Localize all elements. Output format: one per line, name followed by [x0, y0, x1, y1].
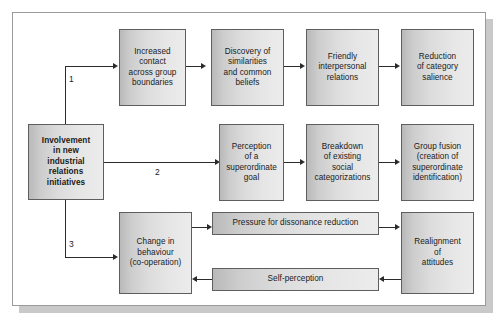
connector-branch2-horizontal	[104, 162, 215, 163]
node-line: and common	[222, 68, 274, 78]
arrowhead-r3-self-to-change	[192, 276, 197, 282]
node-involvement-line-3: industrial	[40, 157, 92, 168]
node-line: attitudes	[412, 258, 463, 268]
node-line: Group fusion	[410, 142, 465, 152]
node-line: beliefs	[222, 78, 274, 88]
arrowhead-r3-realignment-to-self	[379, 276, 384, 282]
arrowhead-branch3	[113, 254, 118, 260]
node-line: Pressure for dissonance reduction	[231, 218, 361, 228]
node-line: contact	[127, 57, 179, 67]
arrowhead-r3-pressure-to-realignment	[395, 224, 400, 230]
node-line: categorizations	[313, 173, 373, 183]
branch-label-1: 1	[69, 75, 74, 84]
connector-branch1-horizontal	[65, 66, 113, 67]
node-line: salience	[415, 73, 460, 83]
node-line: (co-operation)	[128, 258, 184, 268]
node-line: Self-perception	[266, 274, 326, 284]
branch-label-3: 3	[69, 240, 74, 249]
arrowhead-r1-1to2	[201, 63, 206, 69]
node-line: identification)	[410, 173, 465, 183]
connector-branch3-vertical	[65, 200, 66, 257]
node-change-behaviour: Change in behaviour (co-operation)	[119, 212, 192, 294]
connector-r3-realignment-to-self	[384, 279, 401, 280]
node-line: across group	[127, 68, 179, 78]
node-self-perception: Self-perception	[212, 268, 379, 291]
node-line: Breakdown	[313, 142, 373, 152]
node-friendly-relations: Friendly interpersonal relations	[306, 29, 379, 106]
node-line: interpersonal	[317, 62, 369, 72]
node-involvement-line-1: Involvement	[40, 136, 92, 147]
node-line: behaviour	[128, 248, 184, 258]
node-reduction-salience: Reduction of category salience	[401, 29, 474, 106]
node-line: of	[412, 248, 463, 258]
connector-branch1-vertical	[65, 66, 66, 124]
node-line: Perception	[224, 142, 279, 152]
node-realignment-attitudes: Realignment of attitudes	[401, 212, 474, 294]
connector-r1-3to4	[379, 66, 396, 67]
node-line: of existing	[313, 152, 373, 162]
node-line: of a	[224, 152, 279, 162]
node-involvement: Involvement in new industrial relations …	[28, 124, 104, 200]
connector-r3-change-to-pressure	[192, 227, 208, 228]
node-discovery-similarities: Discovery of similarities and common bel…	[211, 29, 284, 106]
connector-r3-pressure-to-realignment	[379, 227, 396, 228]
connector-r3-self-to-change	[197, 279, 212, 280]
connector-r2-1to2	[284, 162, 301, 163]
connector-r1-2to3	[284, 66, 301, 67]
node-line: Change in	[128, 237, 184, 247]
node-involvement-line-4: relations	[40, 167, 92, 178]
node-breakdown-categorizations: Breakdown of existing social categorizat…	[306, 124, 379, 201]
node-line: (creation of	[410, 152, 465, 162]
node-line: superordinate	[224, 163, 279, 173]
node-line: Reduction	[415, 52, 460, 62]
node-perception-goal: Perception of a superordinate goal	[219, 124, 284, 201]
node-line: Increased	[127, 47, 179, 57]
arrowhead-r1-2to3	[300, 63, 305, 69]
arrowhead-r2-1to2	[300, 159, 305, 165]
node-group-fusion: Group fusion (creation of superordinate …	[401, 124, 474, 201]
node-line: of category	[415, 62, 460, 72]
arrowhead-r2-2to3	[395, 159, 400, 165]
node-line: social	[313, 163, 373, 173]
arrowhead-branch1	[113, 63, 118, 69]
node-line: relations	[317, 73, 369, 83]
connector-r1-1to2	[186, 66, 202, 67]
node-line: goal	[224, 173, 279, 183]
node-increased-contact: Increased contact across group boundarie…	[119, 29, 186, 106]
node-line: Discovery of	[222, 47, 274, 57]
arrowhead-r1-3to4	[395, 63, 400, 69]
node-line: Realignment	[412, 237, 463, 247]
node-line: Friendly	[317, 52, 369, 62]
node-involvement-line-2: in new	[40, 146, 92, 157]
connector-branch3-horizontal	[65, 257, 113, 258]
node-line: boundaries	[127, 78, 179, 88]
node-line: superordinate	[410, 163, 465, 173]
node-pressure-dissonance: Pressure for dissonance reduction	[212, 212, 379, 235]
connector-r2-2to3	[379, 162, 396, 163]
node-line: similarities	[222, 57, 274, 67]
node-involvement-line-5: initiatives	[40, 178, 92, 189]
diagram-canvas: Involvement in new industrial relations …	[0, 0, 503, 325]
branch-label-2: 2	[155, 168, 160, 177]
